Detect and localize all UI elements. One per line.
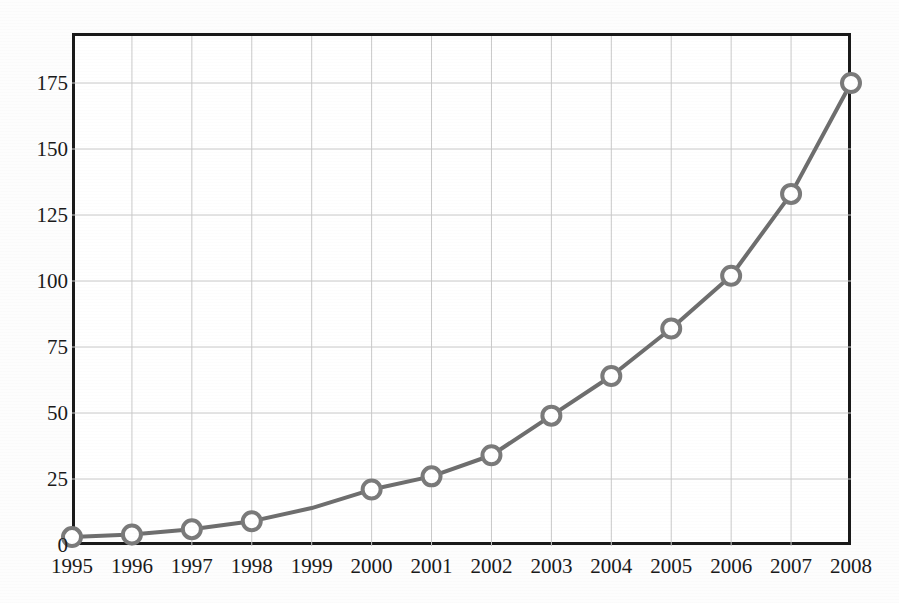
y-axis-tick-label: 50 xyxy=(6,403,68,424)
y-axis-tick-label: 100 xyxy=(6,271,68,292)
x-axis-tick-label: 2008 xyxy=(811,556,891,577)
y-axis-tick-label: 150 xyxy=(6,139,68,160)
y-axis-tick-label: 25 xyxy=(6,469,68,490)
y-axis-tick-label: 0 xyxy=(6,535,68,556)
plot-area-frame xyxy=(72,33,851,545)
y-axis-tick-label: 125 xyxy=(6,205,68,226)
y-axis-tick-label: 75 xyxy=(6,337,68,358)
chart-root: 0255075100125150175 19951996199719981999… xyxy=(0,0,899,603)
y-axis-tick-label: 175 xyxy=(6,73,68,94)
y-axis-tick-labels: 0255075100125150175 xyxy=(0,0,68,603)
